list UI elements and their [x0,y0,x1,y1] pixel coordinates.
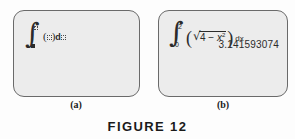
integral-upper-limit-placeholder [34,24,38,31]
panel-label-b: (b) [203,99,243,110]
panel-label-a: (a) [56,99,96,110]
filled-box-icon [31,44,35,48]
integral-upper-limit: 2 [178,23,182,30]
integral-sign-group-a: ∫ [25,24,41,50]
variable-placeholder-box-icon [61,35,66,40]
integral-lower-limit: 0 [175,41,179,48]
calculator-screen-b: ∫ 2 0 (√4 − x2)dx 3.141593074 [158,10,288,97]
open-paren: ( [186,28,192,48]
integral-expression-empty: ∫ ()d [25,24,41,50]
exponent-two: 2 [222,32,225,38]
figure-caption: FIGURE 12 [0,119,295,134]
integrand-group-a: ()d [43,32,66,42]
placeholder-box-icon [34,26,38,30]
integral-lower-limit-placeholder [31,42,35,49]
integral-result-value: 3.141593074 [218,39,279,50]
calculator-screen-a: ∫ ()d [13,10,140,97]
integral-expression-evaluated: ∫ 2 0 (√4 − x2)dx [169,23,185,49]
integral-sign-group-b: ∫ 2 0 [169,23,185,49]
radical-sign-icon: √ [193,30,201,42]
